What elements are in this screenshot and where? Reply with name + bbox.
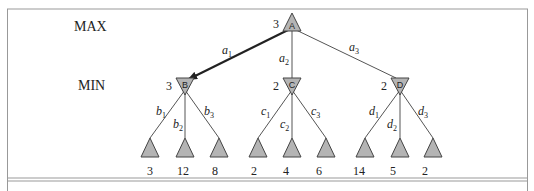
leaf-triangle-icon	[283, 138, 301, 157]
node-c-value: 2	[273, 79, 279, 93]
leaf-value: 12	[177, 164, 189, 178]
leaf-value: 14	[353, 164, 365, 178]
edge-label-b3: b3	[204, 104, 214, 120]
max-level-label: MAX	[74, 19, 107, 34]
leaf-triangle-icon	[317, 138, 335, 157]
edge-a3	[294, 29, 396, 78]
edge-a1	[189, 29, 290, 79]
leaf-value: 3	[147, 164, 153, 178]
edge-d3	[400, 90, 433, 138]
node-a-value: 3	[273, 17, 279, 31]
figure-frame	[7, 9, 528, 191]
leaf-triangle-icon	[391, 138, 409, 157]
root-edges	[189, 29, 396, 79]
node-b-letter: B	[182, 80, 188, 90]
leaf-triangle-icon	[356, 138, 374, 157]
node-d-value: 2	[381, 79, 387, 93]
edge-label-d2: d2	[387, 117, 397, 133]
node-c-letter: C	[289, 80, 296, 90]
leaf-triangle-icon	[424, 138, 442, 157]
edge-label-a1: a1	[222, 43, 232, 59]
minimax-game-tree: MAX MIN a1 a2 a3 A 3 B 3 b1 b2 b3 3 12 8	[0, 0, 534, 191]
leaf-value: 6	[316, 164, 322, 178]
node-b-value: 3	[166, 79, 172, 93]
edge-label-c3: c3	[311, 104, 320, 120]
edge-label-a3: a3	[349, 40, 359, 56]
edge-label-d1: d1	[369, 104, 379, 120]
node-d-letter: D	[397, 80, 404, 90]
edge-c3	[292, 90, 326, 138]
leaf-triangle-icon	[141, 138, 159, 157]
edge-label-d3: d3	[418, 104, 428, 120]
leaf-value: 5	[390, 164, 396, 178]
leaf-triangle-icon	[249, 138, 267, 157]
leaf-value: 8	[212, 164, 218, 178]
edge-label-c1: c1	[261, 104, 270, 120]
node-a: A 3	[273, 13, 301, 31]
edge-label-b1: b1	[156, 104, 166, 120]
subtree-b: B 3 b1 b2 b3 3 12 8	[141, 78, 228, 178]
leaf-triangle-icon	[176, 138, 194, 157]
leaf-value: 2	[251, 164, 257, 178]
subtree-d: D 2 d1 d2 d3 14 5 2	[353, 78, 442, 178]
edge-label-c2: c2	[280, 117, 289, 133]
edge-label-a2: a2	[279, 51, 289, 67]
leaf-value: 2	[422, 164, 428, 178]
subtree-c: C 2 c1 c2 c3 2 4 6	[249, 78, 335, 178]
node-a-letter: A	[289, 21, 295, 31]
leaf-value: 4	[283, 164, 289, 178]
edge-label-b2: b2	[173, 117, 183, 133]
min-level-label: MIN	[78, 78, 105, 93]
leaf-triangle-icon	[210, 138, 228, 157]
